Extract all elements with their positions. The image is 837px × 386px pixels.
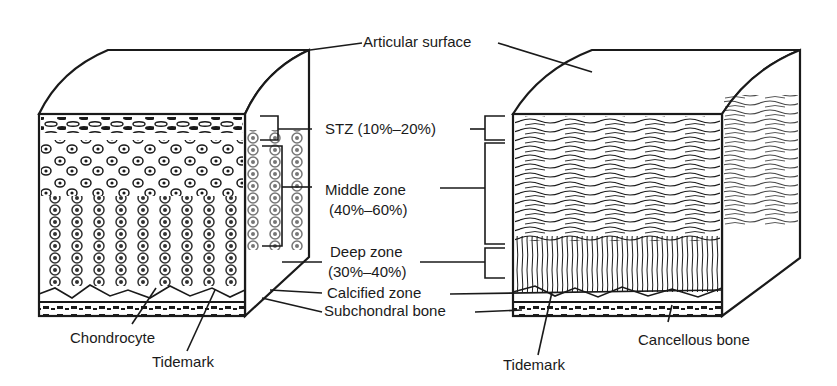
label-subchondral-bone: Subchondral bone	[324, 302, 446, 319]
label-deep-zone: Deep zone	[330, 243, 403, 260]
label-deep-zone-pct: (30%–40%)	[328, 263, 406, 280]
label-articular-surface: Articular surface	[363, 33, 471, 50]
label-tidemark-right: Tidemark	[503, 356, 565, 373]
right-cartilage-block	[420, 50, 800, 316]
label-calcified-zone: Calcified zone	[327, 284, 421, 301]
label-tidemark-left: Tidemark	[152, 353, 214, 370]
label-cancellous-bone: Cancellous bone	[638, 331, 750, 348]
label-chondrocyte: Chondrocyte	[70, 329, 155, 346]
label-middle-zone-pct: (40%–60%)	[329, 201, 407, 218]
label-middle-zone: Middle zone	[325, 181, 406, 198]
left-cartilage-block	[39, 50, 312, 316]
label-stz: STZ (10%–20%)	[325, 120, 436, 137]
